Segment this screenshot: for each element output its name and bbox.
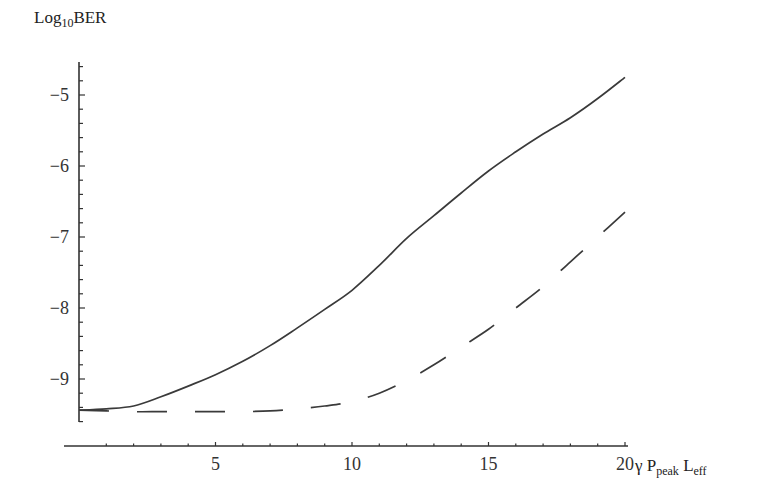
y-tick-label: −9	[50, 369, 69, 389]
series	[79, 77, 625, 411]
x-tick-label: 15	[480, 454, 498, 474]
y-tick-label: −6	[50, 156, 69, 176]
y-tick-label: −5	[50, 85, 69, 105]
series-solid-line	[79, 77, 625, 410]
y-tick-label: −8	[50, 298, 69, 318]
x-tick-label: 10	[343, 454, 361, 474]
y-tick-label: −7	[50, 227, 69, 247]
x-tick-label: 5	[211, 454, 220, 474]
ber-chart: −5−6−7−8−95101520	[0, 0, 776, 498]
series-dashed-line	[79, 212, 625, 412]
x-tick-label: 20	[616, 454, 634, 474]
